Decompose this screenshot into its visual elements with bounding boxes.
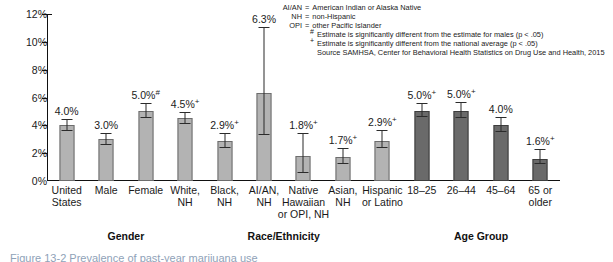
bar-value-label: 5.0%+ xyxy=(447,89,476,100)
error-bar-lower-cap xyxy=(456,117,467,118)
error-bar-lower-cap xyxy=(337,163,348,164)
bar-value-label: 5.0%# xyxy=(131,90,159,101)
error-bar-upper-cap xyxy=(219,133,230,134)
bar xyxy=(138,111,153,181)
chart-figure: 0%2%4%6%8%10%12% 4.0%3.0%5.0%#4.5%+2.9%+… xyxy=(0,0,613,262)
significance-marker: + xyxy=(234,117,239,126)
error-bar-upper-cap xyxy=(495,117,506,118)
bar-group: 5.0%# xyxy=(126,14,165,181)
error-bar-lower-cap xyxy=(61,130,72,131)
note-abbrev-nh: NH = non-Hispanic xyxy=(268,12,613,21)
error-bar-upper-cap xyxy=(101,133,112,134)
note-symbol-hash: # Estimate is significantly different fr… xyxy=(268,30,613,39)
bar xyxy=(178,118,193,181)
error-bar-upper-cap xyxy=(535,149,546,150)
significance-marker: + xyxy=(431,88,436,97)
significance-marker: + xyxy=(471,87,476,96)
bar-value-label: 2.9%+ xyxy=(210,120,239,131)
bar-group: 4.5%+ xyxy=(165,14,204,181)
note-key: NH xyxy=(268,12,302,21)
bar xyxy=(454,111,469,181)
category-label-line: older xyxy=(515,196,566,208)
error-bar-lower-cap xyxy=(416,116,427,117)
equals-sign: = xyxy=(302,12,312,21)
error-bar-lower-cap xyxy=(219,147,230,148)
error-bar-lower-cap xyxy=(535,163,546,164)
bar-value-label: 4.0% xyxy=(55,106,79,117)
bar-value-label: 1.8%+ xyxy=(289,120,318,131)
bar-value-label: 3.0% xyxy=(94,120,118,131)
category-label: 65 orolder xyxy=(515,184,566,208)
bar-group: 4.0% xyxy=(47,14,86,181)
significance-marker: + xyxy=(313,117,318,126)
error-bar xyxy=(461,103,462,118)
significance-marker: + xyxy=(353,133,358,142)
bar xyxy=(99,139,114,181)
error-bar-lower-cap xyxy=(298,172,309,173)
bar-group: 2.9%+ xyxy=(205,14,244,181)
error-bar xyxy=(382,131,383,148)
bar-value-label: 1.7%+ xyxy=(329,135,358,146)
significance-marker: + xyxy=(195,96,200,105)
group-label-age-group: Age Group xyxy=(401,230,561,242)
note-abbrev-aian: AI/AN = American Indian or Alaska Native xyxy=(268,3,613,12)
bar-group: 3.0% xyxy=(86,14,125,181)
plus-symbol: + xyxy=(268,39,314,48)
error-bar-lower-cap xyxy=(101,144,112,145)
source-text: Source SAMHSA, Center for Behavioral Hea… xyxy=(317,48,605,57)
figure-caption: Figure 13-2 Prevalence of past-year mari… xyxy=(10,252,258,262)
group-label-gender: Gender xyxy=(46,230,206,242)
hash-symbol: # xyxy=(268,30,314,39)
note-text: Estimate is significantly different from… xyxy=(314,30,613,39)
error-bar xyxy=(342,149,343,164)
error-bar-upper-cap xyxy=(377,130,388,131)
error-bar-upper-cap xyxy=(456,102,467,103)
note-key: OPI xyxy=(268,21,302,30)
error-bar-lower-cap xyxy=(495,131,506,132)
error-bar-lower-cap xyxy=(140,117,151,118)
bar-value-label: 4.5%+ xyxy=(171,99,200,110)
bar-value-label: 1.6%+ xyxy=(526,136,555,147)
note-value: American Indian or Alaska Native xyxy=(312,3,613,12)
category-label-line: 65 or xyxy=(515,184,566,196)
error-bar-lower-cap xyxy=(377,147,388,148)
bar xyxy=(493,125,508,181)
error-bar-lower-cap xyxy=(180,123,191,124)
significance-marker: # xyxy=(155,88,159,97)
error-bar-upper-cap xyxy=(298,133,309,134)
error-bar xyxy=(540,150,541,164)
note-symbol-plus: + Estimate is significantly different fr… xyxy=(268,39,613,48)
error-bar-upper-cap xyxy=(61,119,72,120)
category-axis-labels: UnitedStatesMaleFemaleWhite,NHBlack,NHAI… xyxy=(47,184,560,234)
bar xyxy=(59,125,74,181)
bar-value-label: 5.0%+ xyxy=(408,90,437,101)
note-value: other Pacific Islander xyxy=(312,21,613,30)
error-bar xyxy=(264,28,265,135)
error-bar xyxy=(303,134,304,173)
category-label-line: or Latino xyxy=(357,196,408,208)
bar-value-label: 2.9%+ xyxy=(368,117,397,128)
bar xyxy=(414,111,429,181)
error-bar-upper-cap xyxy=(140,103,151,104)
significance-marker: + xyxy=(392,114,397,123)
error-bar-upper-cap xyxy=(337,148,348,149)
note-abbrev-opi: OPI = other Pacific Islander xyxy=(268,21,613,30)
error-bar-lower-cap xyxy=(259,134,270,135)
bar-value-label: 4.0% xyxy=(489,104,513,115)
category-label-line: States xyxy=(41,196,92,208)
note-source: Source SAMHSA, Center for Behavioral Hea… xyxy=(268,48,613,57)
category-label-line: or OPI, NH xyxy=(278,208,329,220)
note-key: AI/AN xyxy=(268,3,302,12)
error-bar xyxy=(224,134,225,148)
y-axis: 0%2%4%6%8%10%12% xyxy=(0,0,47,195)
significance-marker: + xyxy=(550,134,555,143)
group-label-race-ethnicity: Race/Ethnicity xyxy=(204,230,364,242)
equals-sign: = xyxy=(302,3,312,12)
error-bar xyxy=(145,104,146,118)
note-text: Estimate is significantly different from… xyxy=(314,39,613,48)
error-bar-upper-cap xyxy=(416,103,427,104)
error-bar-upper-cap xyxy=(180,112,191,113)
note-value: non-Hispanic xyxy=(312,12,613,21)
chart-notes: AI/AN = American Indian or Alaska Native… xyxy=(268,3,613,58)
error-bar xyxy=(500,118,501,132)
